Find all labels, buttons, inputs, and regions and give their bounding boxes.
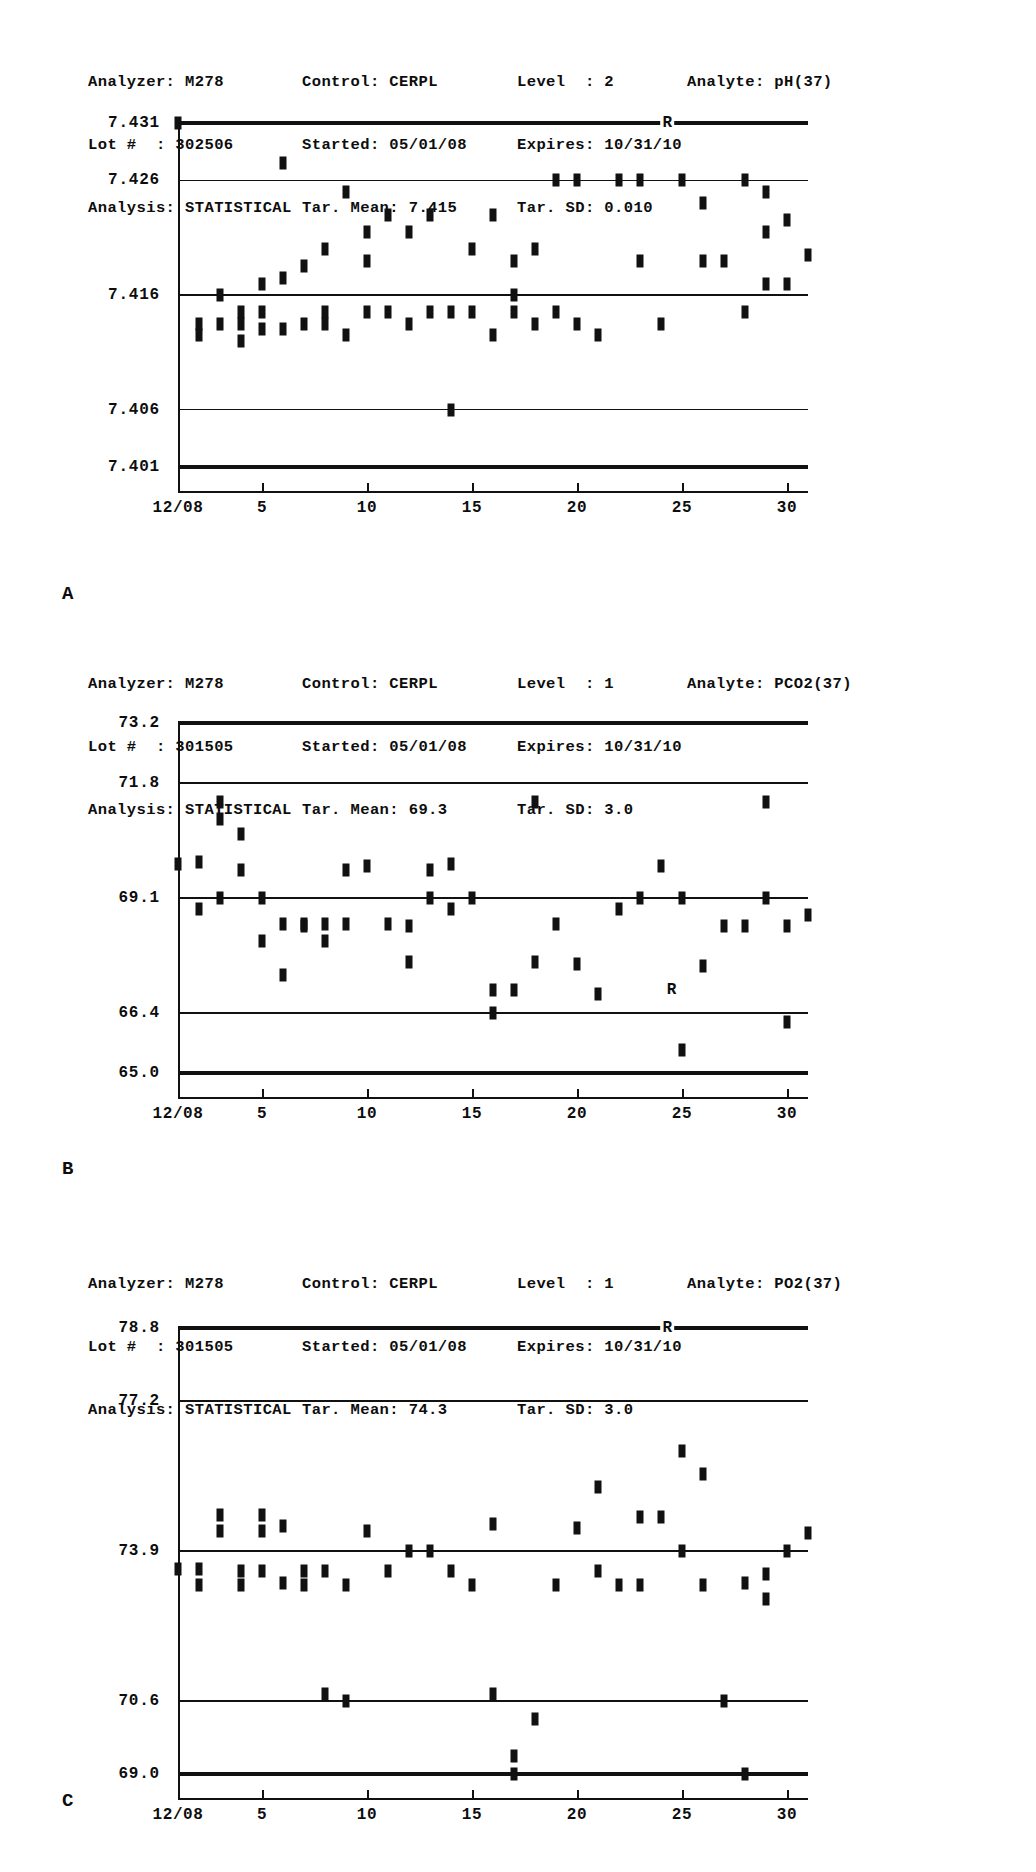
data-point xyxy=(721,1695,728,1708)
data-point xyxy=(196,855,203,868)
x-tick-label: 20 xyxy=(567,1105,587,1123)
control-field: Control: CERPL xyxy=(302,1274,517,1295)
y-tick-label: 73.9 xyxy=(60,1542,160,1560)
analyte-field: Analyte: pH(37) xyxy=(687,72,833,93)
x-tick xyxy=(787,1790,789,1799)
control-limit-line xyxy=(178,721,808,725)
data-point xyxy=(343,329,350,342)
data-point xyxy=(364,859,371,872)
data-point xyxy=(679,1545,686,1558)
x-tick xyxy=(682,483,684,492)
x-tick xyxy=(178,1089,180,1098)
report-page: Analyzer: M278Control: CERPLLevel : 2Ana… xyxy=(0,0,1036,1872)
analyzer-field: Analyzer: M278 xyxy=(88,674,302,695)
data-point xyxy=(175,857,182,870)
x-tick xyxy=(367,483,369,492)
data-point xyxy=(763,1567,770,1580)
data-point xyxy=(574,174,581,187)
x-tick xyxy=(178,1790,180,1799)
x-tick xyxy=(262,1790,264,1799)
x-tick-label: 25 xyxy=(672,1105,692,1123)
x-tick xyxy=(577,483,579,492)
data-point xyxy=(742,1576,749,1589)
x-tick xyxy=(178,483,180,492)
data-point xyxy=(280,1576,287,1589)
x-axis-line xyxy=(178,1097,808,1099)
data-point xyxy=(259,323,266,336)
data-point xyxy=(280,917,287,930)
data-point xyxy=(406,1545,413,1558)
data-point xyxy=(658,859,665,872)
y-tick-label: 66.4 xyxy=(60,1004,160,1022)
data-point xyxy=(448,857,455,870)
panel-c-letter: C xyxy=(62,1790,73,1812)
data-point xyxy=(511,1768,518,1781)
panel-b-letter: B xyxy=(62,1158,73,1180)
data-point xyxy=(805,909,812,922)
data-point xyxy=(385,208,392,221)
x-tick-label: 25 xyxy=(672,499,692,517)
x-tick xyxy=(787,1089,789,1098)
data-point xyxy=(553,174,560,187)
x-tick-label: 12/08 xyxy=(152,1105,203,1123)
x-tick-label: 30 xyxy=(777,1806,797,1824)
data-point xyxy=(280,1519,287,1532)
data-point xyxy=(763,1592,770,1605)
x-tick-label: 5 xyxy=(257,499,267,517)
control-limit-line xyxy=(178,121,808,125)
data-point xyxy=(343,917,350,930)
reference-line xyxy=(178,897,808,899)
data-point xyxy=(238,1565,245,1578)
data-point xyxy=(784,1015,791,1028)
data-point xyxy=(700,254,707,267)
data-point xyxy=(763,795,770,808)
chart-panel-c: 78.877.273.970.669.0R12/0851015202530 xyxy=(178,1328,808,1774)
data-point xyxy=(301,260,308,273)
x-tick-label: 15 xyxy=(462,1105,482,1123)
data-point xyxy=(343,1579,350,1592)
data-point xyxy=(406,225,413,238)
data-point xyxy=(196,329,203,342)
data-point xyxy=(490,1007,497,1020)
data-point xyxy=(616,1579,623,1592)
y-tick-label: 7.401 xyxy=(60,458,160,476)
data-point xyxy=(343,864,350,877)
data-point xyxy=(658,317,665,330)
data-point xyxy=(700,1579,707,1592)
y-tick-label: 65.0 xyxy=(60,1064,160,1082)
y-tick-label: 69.1 xyxy=(60,889,160,907)
data-point xyxy=(574,958,581,971)
data-point xyxy=(595,1565,602,1578)
data-point xyxy=(490,983,497,996)
x-tick-label: 10 xyxy=(357,499,377,517)
data-point xyxy=(511,289,518,302)
y-tick-label: 7.416 xyxy=(60,286,160,304)
data-point xyxy=(616,174,623,187)
data-point xyxy=(469,306,476,319)
data-point xyxy=(679,174,686,187)
data-point xyxy=(406,919,413,932)
data-point xyxy=(448,1565,455,1578)
data-point xyxy=(196,902,203,915)
panel-a-letter: A xyxy=(62,583,73,605)
data-point xyxy=(406,317,413,330)
x-tick xyxy=(262,483,264,492)
x-tick-label: 15 xyxy=(462,1806,482,1824)
data-point xyxy=(427,864,434,877)
data-point xyxy=(784,214,791,227)
data-point xyxy=(280,157,287,170)
data-point xyxy=(364,306,371,319)
data-point xyxy=(658,1510,665,1523)
y-tick-label: 77.2 xyxy=(60,1392,160,1410)
x-tick xyxy=(472,483,474,492)
x-axis-line xyxy=(178,1798,808,1800)
data-point xyxy=(700,960,707,973)
data-point xyxy=(784,919,791,932)
header-row-1: Analyzer: M278Control: CERPLLevel : 2Ana… xyxy=(88,72,833,93)
data-point xyxy=(511,983,518,996)
data-point xyxy=(511,306,518,319)
data-point xyxy=(280,271,287,284)
data-point xyxy=(175,117,182,130)
data-point xyxy=(595,1481,602,1494)
data-point xyxy=(322,243,329,256)
